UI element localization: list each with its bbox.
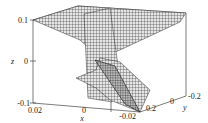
- y-tick-mid: 0: [170, 97, 174, 106]
- z-tick-mid: 0: [24, 57, 28, 66]
- y-axis-label: y: [182, 103, 187, 112]
- surface-plot: 0.1 0 -0.1 z 0.02 0 -0.02 x 0.2 0 -0.2 y: [0, 0, 208, 123]
- x-tick-left: 0.02: [28, 106, 42, 115]
- x-axis-label: x: [79, 114, 84, 123]
- z-axis-label: z: [10, 57, 15, 66]
- x-tick-right: -0.02: [119, 112, 136, 121]
- z-tick-top: 0.1: [18, 16, 28, 25]
- y-tick-left: 0.2: [146, 104, 156, 113]
- y-tick-right: -0.2: [188, 92, 201, 101]
